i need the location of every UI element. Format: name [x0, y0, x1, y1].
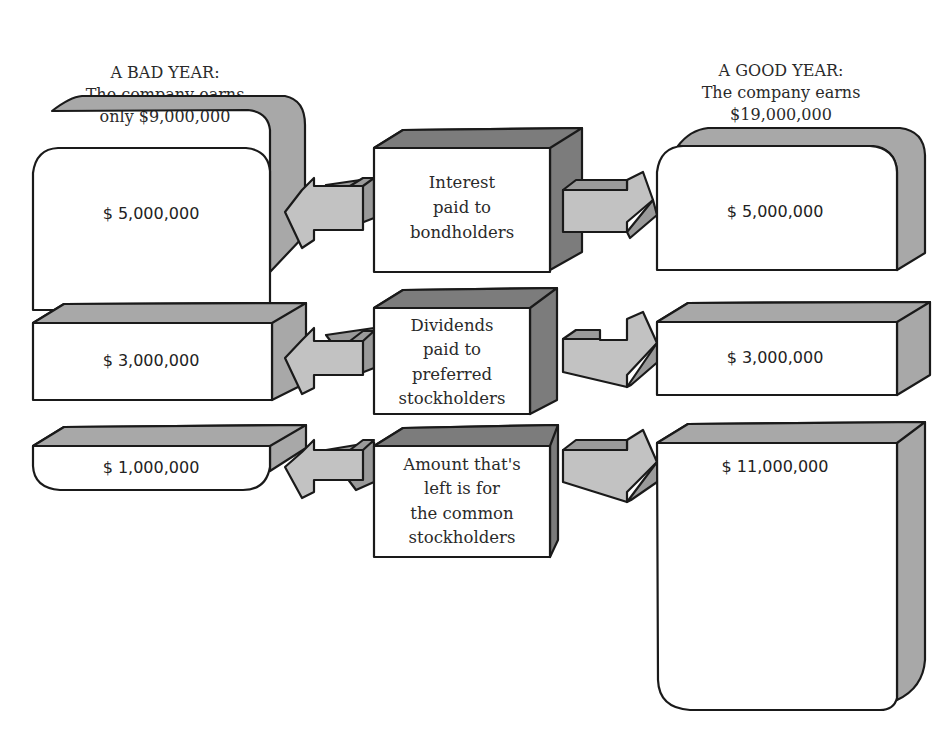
- arrow-right-preferred: [563, 312, 660, 387]
- good-year-header: A GOOD YEAR: The company earns $19,000,0…: [702, 61, 861, 124]
- preferred-label-4: stockholders: [399, 389, 506, 408]
- bad-year-preferred-box: $ 3,000,000: [33, 303, 306, 400]
- interest-label-3: bondholders: [410, 223, 514, 242]
- preferred-label-1: Dividends: [410, 316, 493, 335]
- good-year-common-amount: $ 11,000,000: [722, 457, 829, 476]
- bad-year-title: A BAD YEAR:: [109, 63, 219, 82]
- arrow-right-common: [563, 430, 660, 502]
- good-year-line2: The company earns: [702, 83, 861, 102]
- arrow-right-interest: [563, 172, 657, 238]
- good-year-title: A GOOD YEAR:: [718, 61, 844, 80]
- common-label-1: Amount that's: [402, 455, 520, 474]
- bad-year-common-amount: $ 1,000,000: [103, 458, 200, 477]
- interest-category-box: Interest paid to bondholders: [374, 128, 582, 272]
- interest-label-1: Interest: [429, 173, 496, 192]
- good-year-interest-amount: $ 5,000,000: [727, 202, 824, 221]
- preferred-label-2: paid to: [423, 340, 481, 359]
- common-label-2: left is for: [424, 479, 500, 498]
- good-year-preferred-amount: $ 3,000,000: [727, 348, 824, 367]
- common-label-4: stockholders: [409, 528, 516, 547]
- bad-year-interest-amount: $ 5,000,000: [103, 204, 200, 223]
- good-year-interest-box: $ 5,000,000: [657, 128, 925, 270]
- good-year-earnings: $19,000,000: [730, 105, 832, 124]
- common-category-box: Amount that's left is for the common sto…: [374, 425, 558, 557]
- bad-year-header: A BAD YEAR: The company earns only $9,00…: [86, 63, 245, 126]
- bad-year-common-box: $ 1,000,000: [33, 425, 306, 490]
- earnings-distribution-diagram: A BAD YEAR: The company earns only $9,00…: [0, 0, 952, 731]
- bad-year-preferred-amount: $ 3,000,000: [103, 351, 200, 370]
- good-year-common-box: $ 11,000,000: [657, 422, 925, 710]
- common-label-3: the common: [410, 504, 514, 523]
- preferred-label-3: preferred: [412, 365, 493, 384]
- interest-label-2: paid to: [433, 198, 491, 217]
- bad-year-interest-box: $ 5,000,000: [33, 96, 305, 310]
- preferred-category-box: Dividends paid to preferred stockholders: [374, 288, 557, 414]
- good-year-preferred-box: $ 3,000,000: [657, 302, 930, 395]
